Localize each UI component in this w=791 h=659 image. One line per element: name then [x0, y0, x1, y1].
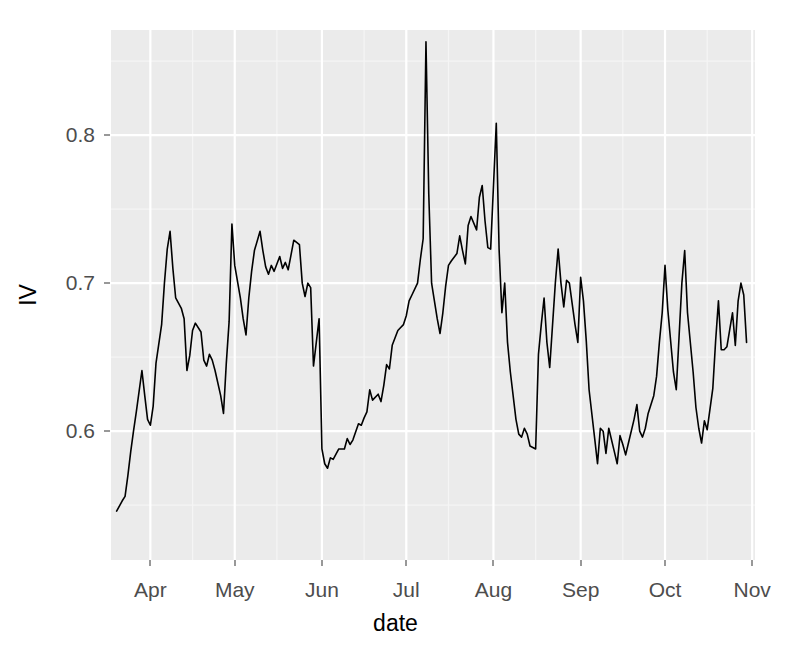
y-tick-mark	[104, 283, 110, 284]
x-tick-label: Jun	[305, 578, 339, 602]
iv-series-line	[117, 42, 747, 511]
y-tick-label: 0.6	[66, 419, 95, 443]
x-tick-label: Apr	[134, 578, 167, 602]
plot-svg	[111, 30, 755, 560]
chart-container: IV 0.60.70.8 AprMayJunJulAugSepOctNov da…	[0, 0, 791, 659]
x-tick-mark	[493, 560, 494, 566]
x-tick-mark	[752, 560, 753, 566]
y-tick-mark	[104, 135, 110, 136]
x-tick-label: May	[215, 578, 255, 602]
x-tick-label: Oct	[649, 578, 682, 602]
y-tick-mark	[104, 431, 110, 432]
y-tick-label: 0.7	[66, 271, 95, 295]
x-axis-title: date	[0, 610, 791, 637]
x-tick-mark	[234, 560, 235, 566]
x-tick-label: Sep	[562, 578, 599, 602]
x-tick-label: Aug	[475, 578, 512, 602]
x-tick-label: Nov	[734, 578, 771, 602]
x-tick-mark	[406, 560, 407, 566]
y-axis-ticks: 0.60.70.8	[0, 0, 95, 659]
x-tick-mark	[150, 560, 151, 566]
x-tick-label: Jul	[393, 578, 420, 602]
x-tick-mark	[580, 560, 581, 566]
x-tick-mark	[321, 560, 322, 566]
plot-panel	[111, 30, 755, 560]
y-tick-label: 0.8	[66, 123, 95, 147]
x-tick-mark	[665, 560, 666, 566]
